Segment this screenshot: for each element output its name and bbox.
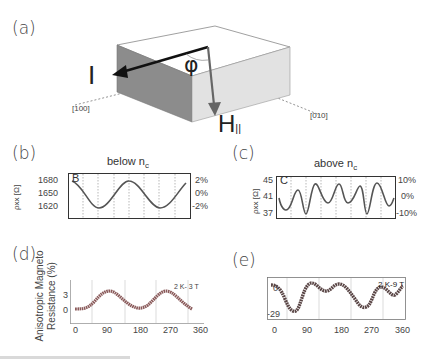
panel-b-rtick: -2% [192, 201, 208, 211]
panel-d-ylabel-line1: Anisotropic Magneto [34, 248, 46, 344]
panel-b-curve [72, 181, 186, 208]
panel-d-xtick: 90 [102, 325, 112, 335]
panel-d-xtick: 0 [73, 325, 78, 335]
panel-e-xtick: 90 [302, 325, 312, 335]
panel-d-ytick: 0 [63, 305, 68, 315]
panel-e-label: (e) [232, 250, 256, 270]
panel-d-ylabel: Anisotropic Magneto Resistance (%) [34, 248, 58, 344]
panel-c-label: (c) [232, 143, 255, 163]
panel-b-ytick: 1650 [38, 188, 58, 198]
angle-phi-label: φ [184, 52, 199, 77]
crystal-diagram [0, 0, 428, 140]
panel-d-annotation: 2 K- 3 T [174, 283, 199, 290]
panel-e-xtick: 270 [364, 325, 379, 335]
panel-c-ytick: 41 [263, 191, 273, 201]
panel-b-title-sub: c [145, 161, 149, 170]
panel-b-inset-letter: B [72, 172, 79, 184]
panel-c-inset-letter: C [280, 174, 288, 186]
panel-c-rtick: 10% [398, 175, 416, 185]
panel-b-ytick: 1680 [38, 175, 58, 185]
panel-c-ytick: 37 [263, 208, 273, 218]
panel-b-ylabel: ρxx [Ω] [12, 185, 21, 210]
panel-b-ytick: 1620 [38, 201, 58, 211]
field-subscript: || [235, 122, 241, 134]
panel-c-ylabel: ρxx [Ω] [251, 189, 260, 214]
panel-c-rtick: -10% [396, 208, 417, 218]
panel-e-xtick: 360 [395, 325, 410, 335]
panel-d-label: (d) [12, 244, 36, 264]
panel-d-ylabel-line2: Resistance (%) [46, 248, 58, 344]
current-label: I [88, 60, 95, 91]
panel-b-title-text: below n [107, 155, 145, 167]
axis-010-label: [010] [310, 111, 328, 120]
panel-d-ytick: 3 [63, 290, 68, 300]
panel-c-plot [276, 176, 396, 219]
axis-100-label: [100] [72, 104, 90, 113]
panel-d-xtick: 360 [193, 325, 208, 335]
panel-c-title-text: above n [314, 157, 353, 169]
field-label: H|| [218, 110, 241, 138]
panel-c-title: above nc [314, 157, 357, 172]
panel-e-annotation: 2 K-9 T [378, 280, 404, 289]
field-letter: H [218, 110, 235, 137]
panel-d-xtick: 180 [133, 325, 148, 335]
panel-c-curve [279, 183, 394, 214]
panel-b-label: (b) [12, 143, 36, 163]
panel-b-plot [68, 173, 191, 219]
panel-c-ytick: 45 [263, 175, 273, 185]
panel-c-title-sub: c [353, 163, 357, 172]
panel-b-rtick: 0% [195, 188, 208, 198]
panel-d-points [75, 291, 192, 309]
panel-b-rtick: 2% [195, 175, 208, 185]
panel-c-rtick: 0% [401, 191, 414, 201]
panel-d-xtick: 270 [163, 325, 178, 335]
panel-b-title: below nc [107, 155, 149, 170]
panel-e-xtick: 0 [272, 325, 277, 335]
panel-e-xtick: 180 [334, 325, 349, 335]
